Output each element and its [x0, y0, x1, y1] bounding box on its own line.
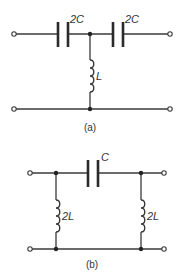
terminal-icon [162, 247, 166, 251]
junction-node [54, 247, 58, 251]
terminal-icon [28, 171, 32, 175]
caption-b: (b) [86, 259, 98, 270]
terminal-icon [12, 32, 16, 36]
inductor-icon [56, 200, 60, 232]
inductor-icon [90, 60, 94, 92]
capacitor-label: C [101, 151, 109, 163]
inductor-label: 2L [146, 210, 159, 222]
junction-node [88, 32, 92, 36]
junction-node [139, 171, 143, 175]
junction-node [88, 107, 92, 111]
junction-node [139, 247, 143, 251]
capacitor-icon [58, 22, 68, 47]
terminal-icon [168, 32, 172, 36]
circuit-a: 2C 2C L (a) [12, 13, 172, 133]
terminal-icon [12, 107, 16, 111]
terminal-icon [28, 247, 32, 251]
terminal-icon [168, 107, 172, 111]
junction-node [54, 171, 58, 175]
circuit-b: C 2L 2L (b) [28, 151, 166, 270]
capacitor-label: 2C [124, 13, 139, 25]
caption-a: (a) [84, 122, 96, 133]
capacitor-icon [113, 22, 123, 47]
inductor-label: L [96, 70, 102, 82]
inductor-label: 2L [61, 210, 74, 222]
inductor-icon [141, 200, 145, 232]
terminal-icon [162, 171, 166, 175]
capacitor-label: 2C [69, 13, 84, 25]
capacitor-icon [88, 160, 98, 187]
circuit-diagram: 2C 2C L (a) C [0, 0, 181, 272]
